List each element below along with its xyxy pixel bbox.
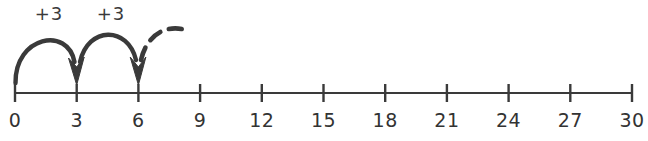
tick-label-12: 12 [249, 109, 274, 131]
tick-label-15: 15 [311, 109, 336, 131]
tick-label-27: 27 [558, 109, 583, 131]
jump-arc-3-dashed [141, 28, 188, 60]
jump-arc-2 [80, 35, 146, 85]
number-line-svg: 0 3 6 9 12 15 18 21 24 27 30 +3 +3 [0, 0, 648, 141]
jump-arc-3-dashed-path [141, 28, 188, 60]
tick-label-21: 21 [434, 109, 459, 131]
jump-arc-2-arrowhead-icon [130, 57, 146, 85]
tick-label-24: 24 [496, 109, 521, 131]
jump-arc-1 [15, 40, 84, 85]
jump-label-1: +3 [35, 3, 64, 24]
tick-labels: 0 3 6 9 12 15 18 21 24 27 30 [9, 109, 645, 131]
jump-arc-2-path [80, 35, 136, 62]
number-line-figure: 0 3 6 9 12 15 18 21 24 27 30 +3 +3 [0, 0, 648, 141]
tick-label-9: 9 [194, 109, 207, 131]
tick-label-18: 18 [373, 109, 398, 131]
tick-label-3: 3 [70, 109, 83, 131]
tick-label-0: 0 [9, 109, 22, 131]
tick-label-6: 6 [132, 109, 145, 131]
tick-label-30: 30 [619, 109, 644, 131]
jump-label-2: +3 [97, 3, 126, 24]
jump-arc-1-path [15, 40, 74, 83]
